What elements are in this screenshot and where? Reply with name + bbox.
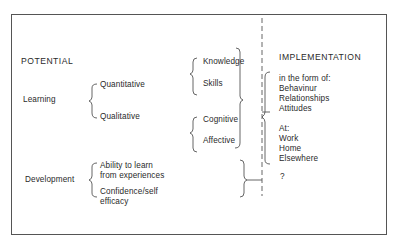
- development-outcome-bracket-icon: [240, 160, 247, 197]
- knowledge-label: Knowledge: [203, 57, 244, 68]
- implementation-brace-icon: [262, 72, 270, 164]
- location-elsewhere: Elsewhere: [279, 154, 318, 165]
- form-attitudes: Attitudes: [279, 104, 312, 115]
- form-behaviour: Behavinur: [279, 84, 317, 95]
- implementation-heading: IMPLEMENTATION: [279, 52, 361, 63]
- learning-brace-icon: [89, 84, 97, 118]
- affective-label: Affective: [203, 136, 235, 147]
- learning-label: Learning: [23, 95, 56, 106]
- location-work: Work: [279, 134, 298, 145]
- form-intro: in the form of:: [279, 74, 331, 85]
- qualitative-brace-icon: [190, 117, 197, 152]
- connector-lines: [0, 0, 398, 252]
- potential-heading: POTENTIAL: [21, 56, 73, 67]
- cognitive-label: Cognitive: [203, 115, 238, 126]
- form-relationships: Relationships: [279, 94, 329, 105]
- development-item-ability: Ability to learn: [100, 161, 153, 172]
- location-intro: At:: [279, 124, 289, 135]
- development-item-confidence: Confidence/self: [100, 187, 158, 198]
- location-home: Home: [279, 144, 301, 155]
- development-label: Development: [25, 175, 74, 186]
- skills-label: Skills: [203, 79, 223, 90]
- development-item-from-experiences: from experiences: [100, 171, 164, 182]
- quantitative-brace-icon: [190, 58, 197, 95]
- development-item-efficacy: efficacy: [100, 197, 128, 208]
- unknown-mark: ?: [280, 172, 285, 183]
- development-brace-icon: [89, 163, 97, 197]
- quantitative-label: Quantitative: [100, 80, 145, 91]
- qualitative-label: Qualitative: [100, 112, 140, 123]
